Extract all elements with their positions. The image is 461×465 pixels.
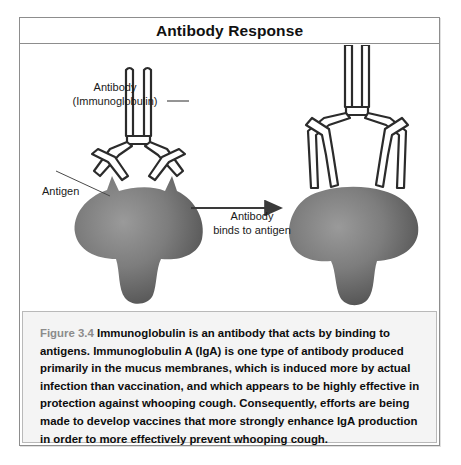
figure-frame: Antibody Response <box>19 17 440 446</box>
arrow-label: Antibody binds to antigen <box>192 209 312 237</box>
antibody-bound-icon <box>306 45 408 188</box>
antigen-label: Antigen <box>42 185 79 199</box>
antibody-label-line1: Antibody <box>60 81 170 95</box>
arrow-label-line2: binds to antigen <box>192 223 312 237</box>
arrow-label-line1: Antibody <box>192 209 312 223</box>
figure-root: Antibody Response <box>0 0 461 465</box>
figure-number: Figure 3.4 <box>40 327 94 339</box>
figure-title-band: Antibody Response <box>20 18 439 44</box>
figure-caption-box: Figure 3.4 Immunoglobulin is an antibody… <box>22 311 437 443</box>
antibody-label: Antibody (Immunoglobulin) <box>60 81 170 108</box>
figure-caption-body: Immunoglobulin is an antibody that acts … <box>40 327 419 445</box>
antigen-blob-bound-icon <box>289 187 418 305</box>
figure-caption: Figure 3.4 Immunoglobulin is an antibody… <box>40 325 421 448</box>
illustration-canvas: Antibody (Immunoglobulin) Antigen Antibo… <box>20 45 439 310</box>
antibody-label-line2: (Immunoglobulin) <box>60 95 170 109</box>
page-title: Antibody Response <box>156 22 303 40</box>
antigen-blob-icon <box>75 176 203 304</box>
